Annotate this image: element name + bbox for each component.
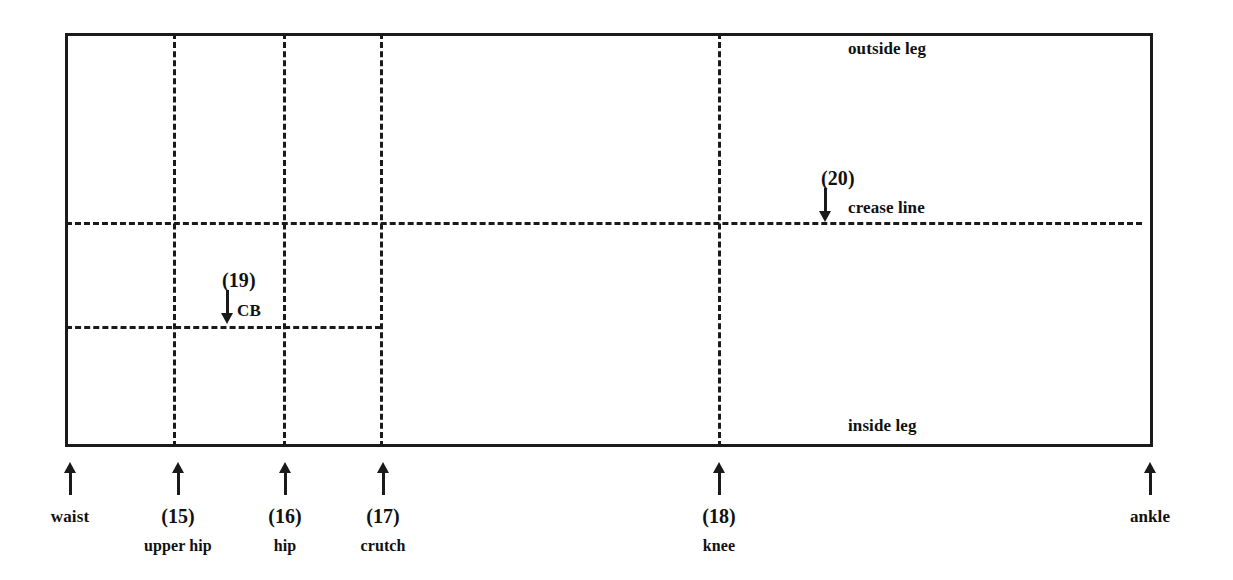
marker-knee-number: (18) bbox=[702, 506, 736, 526]
marker-crutch-up-arrow-icon bbox=[377, 462, 389, 495]
marker-knee-up-arrow-icon bbox=[713, 462, 725, 495]
marker-waist-name: waist bbox=[51, 508, 89, 525]
marker-upper-hip-name: upper hip bbox=[144, 538, 212, 554]
trouser-block-rectangle bbox=[65, 33, 1153, 447]
marker-crutch-number: (17) bbox=[366, 506, 400, 526]
label-inside-leg: inside leg bbox=[848, 417, 917, 434]
label-cb: CB bbox=[237, 302, 261, 319]
crease-line-h bbox=[66, 222, 1142, 225]
marker-hip-name: hip bbox=[274, 538, 297, 554]
marker-ankle-up-arrow-icon bbox=[1144, 462, 1156, 495]
callout-19-down-arrow-icon bbox=[221, 290, 233, 324]
upper-hip-line bbox=[173, 33, 176, 447]
marker-waist-up-arrow-icon bbox=[64, 462, 76, 495]
label-outside-leg: outside leg bbox=[848, 40, 926, 57]
callout-19-number: (19) bbox=[222, 270, 256, 290]
hip-line bbox=[283, 33, 286, 447]
crutch-line bbox=[380, 33, 383, 447]
cb-line-h bbox=[66, 326, 381, 329]
marker-hip-number: (16) bbox=[268, 506, 302, 526]
marker-hip-up-arrow-icon bbox=[279, 462, 291, 495]
marker-upper-hip-up-arrow-icon bbox=[172, 462, 184, 495]
marker-ankle-name: ankle bbox=[1130, 508, 1170, 525]
marker-crutch-name: crutch bbox=[360, 538, 405, 554]
marker-upper-hip-number: (15) bbox=[161, 506, 195, 526]
marker-knee-name: knee bbox=[703, 538, 735, 554]
callout-20-number: (20) bbox=[821, 168, 855, 188]
label-crease-line: crease line bbox=[848, 199, 925, 216]
knee-line bbox=[718, 33, 721, 447]
callout-20-down-arrow-icon bbox=[819, 188, 831, 222]
diagram-canvas: outside leg inside leg crease line CB (1… bbox=[0, 0, 1233, 580]
